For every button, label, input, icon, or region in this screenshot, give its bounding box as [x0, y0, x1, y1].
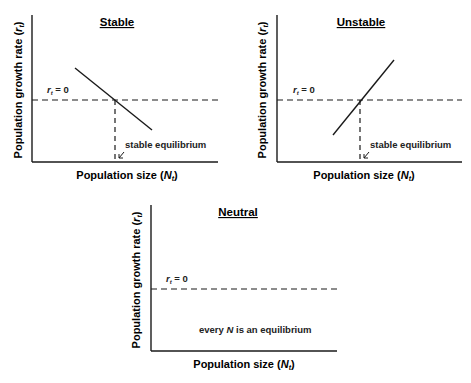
equilibrium-annotation: stable equilibrium	[125, 139, 206, 150]
panel-title: Stable	[100, 16, 135, 28]
panel-title: Unstable	[337, 16, 386, 28]
y-axis-label: Population growth rate (rt)	[130, 211, 143, 348]
zero-line-label: rt = 0	[293, 84, 315, 96]
y-axis-label: Population growth rate (rt)	[256, 21, 269, 158]
x-axis-label: Population size (Nt)	[313, 169, 415, 182]
panel-unstable: Unstable rt = 0 stable equilibrium Popul…	[256, 15, 462, 182]
growth-rate-line	[333, 60, 394, 135]
equilibrium-annotation: every N is an equilibrium	[199, 324, 311, 335]
zero-line-label: rt = 0	[47, 84, 69, 96]
arrow-icon	[119, 152, 124, 158]
x-axis-label: Population size (Nt)	[76, 169, 178, 182]
panel-stable: Stable rt = 0 stable equilibrium Populat…	[12, 15, 218, 182]
arrow-icon	[364, 152, 369, 158]
zero-line-label: rt = 0	[166, 273, 188, 285]
equilibrium-annotation: stable equilibrium	[370, 139, 451, 150]
y-axis-label: Population growth rate (rt)	[12, 21, 25, 158]
x-axis-label: Population size (Nt)	[193, 358, 295, 371]
panel-title: Neutral	[218, 206, 258, 218]
equilibrium-diagrams: Stable rt = 0 stable equilibrium Populat…	[0, 0, 471, 383]
growth-rate-line	[75, 68, 152, 130]
panel-neutral: Neutral rt = 0 every N is an equilibrium…	[130, 205, 337, 371]
